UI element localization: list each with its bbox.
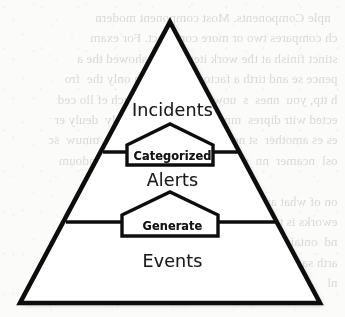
tier-label-incidents: Incidents — [0, 100, 345, 120]
pyramid-diagram: Incidents Alerts Events Categorized Gene… — [0, 0, 345, 317]
tier-label-alerts: Alerts — [0, 170, 345, 190]
diagram-page: nple Components. Most component modern c… — [0, 0, 345, 317]
badge-label-categorized: Categorized — [0, 149, 345, 163]
badge-label-generate: Generate — [0, 219, 345, 233]
tier-label-events: Events — [0, 251, 345, 271]
